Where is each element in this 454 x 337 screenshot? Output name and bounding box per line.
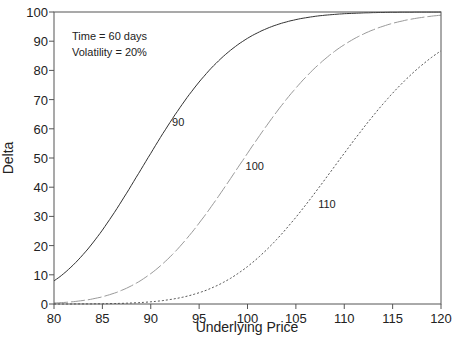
y-tick-label: 30 <box>34 209 48 224</box>
x-tick-label: 90 <box>144 311 158 326</box>
y-tick-label: 100 <box>26 5 48 20</box>
y-tick-label: 60 <box>34 122 48 137</box>
y-axis-title: Delta <box>0 141 16 174</box>
y-tick-label: 0 <box>41 297 48 312</box>
x-tick-label: 80 <box>47 311 61 326</box>
delta-chart: 0102030405060708090100 80859095100105110… <box>0 0 454 337</box>
y-tick-label: 50 <box>34 151 48 166</box>
x-tick-label: 120 <box>430 311 452 326</box>
y-tick-label: 20 <box>34 239 48 254</box>
y-tick-label: 90 <box>34 34 48 49</box>
y-axis-ticks: 0102030405060708090100 <box>26 5 54 312</box>
annotation-time: Time = 60 days <box>72 30 148 42</box>
y-tick-label: 70 <box>34 93 48 108</box>
curve-label-90: 90 <box>172 116 184 128</box>
x-tick-label: 110 <box>334 311 355 326</box>
y-tick-label: 80 <box>34 63 48 78</box>
x-tick-label: 115 <box>382 311 403 326</box>
curve-labels: 90100110 <box>172 116 336 210</box>
annotation-volatility: Volatility = 20% <box>72 46 147 58</box>
curve-strike-110 <box>54 51 441 304</box>
x-axis-title: Underlying Price <box>196 319 299 335</box>
curve-label-100: 100 <box>246 160 264 172</box>
curve-label-110: 110 <box>318 198 336 210</box>
y-tick-label: 10 <box>34 268 48 283</box>
x-tick-label: 85 <box>95 311 109 326</box>
y-tick-label: 40 <box>34 180 48 195</box>
